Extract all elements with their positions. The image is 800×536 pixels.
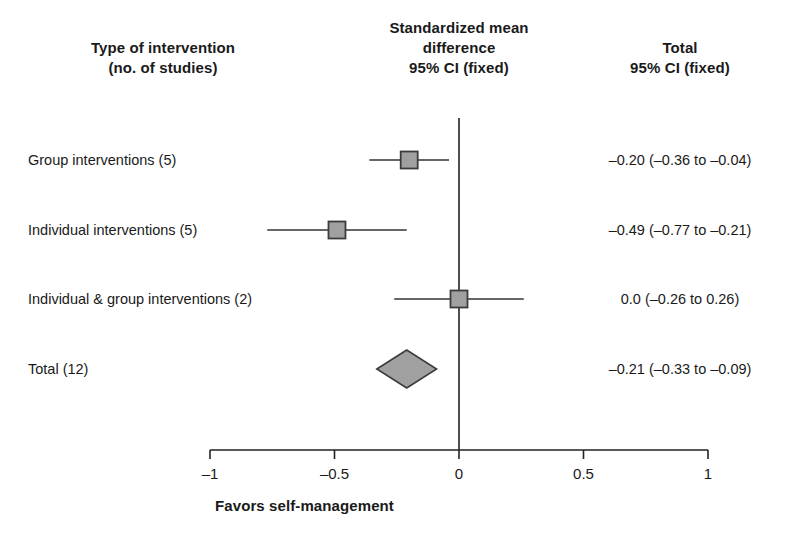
row-label-1: Individual interventions (5) bbox=[28, 221, 197, 239]
row-total-value-3: –0.21 (–0.33 to –0.09) bbox=[560, 360, 800, 378]
effect-estimate-marker-2 bbox=[451, 291, 468, 308]
x-axis-tick-label-4: 1 bbox=[673, 465, 743, 483]
row-label-0: Group interventions (5) bbox=[28, 151, 176, 169]
row-total-value-2: 0.0 (–0.26 to 0.26) bbox=[560, 290, 800, 308]
row-label-2: Individual & group interventions (2) bbox=[28, 290, 252, 308]
forest-plot-canvas bbox=[0, 0, 800, 536]
effect-estimate-marker-1 bbox=[328, 222, 345, 239]
x-axis-tick-label-1: –0.5 bbox=[300, 465, 370, 483]
x-axis-tick-label-3: 0.5 bbox=[549, 465, 619, 483]
row-total-value-1: –0.49 (–0.77 to –0.21) bbox=[560, 221, 800, 239]
row-total-value-0: –0.20 (–0.36 to –0.04) bbox=[560, 151, 800, 169]
effect-estimate-marker-0 bbox=[401, 152, 418, 169]
summary-diamond-3 bbox=[377, 350, 437, 388]
x-axis-tick-label-2: 0 bbox=[424, 465, 494, 483]
x-axis-tick-label-0: –1 bbox=[175, 465, 245, 483]
row-label-3: Total (12) bbox=[28, 360, 88, 378]
